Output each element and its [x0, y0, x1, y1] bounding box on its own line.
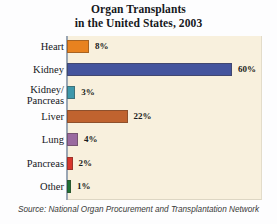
bar-category-label-line: Kidney: [2, 64, 64, 75]
source-note: Source: National Organ Procurement and T…: [0, 205, 277, 215]
bar-category-label-line: Pancreas: [2, 158, 64, 169]
bar-category-label: Kidney: [2, 64, 64, 75]
bar-value-label: 22%: [134, 110, 152, 123]
bar-row: Lung4%: [0, 133, 277, 156]
bar-value-label: 3%: [81, 86, 95, 99]
bar-category-label: Pancreas: [2, 158, 64, 169]
bar-rows-container: Heart8%Kidney60%Kidney/Pancreas3%Liver22…: [0, 36, 277, 200]
bar-row: Other1%: [0, 180, 277, 203]
page-title: Organ Transplants in the United States, …: [0, 3, 277, 30]
bar-row: Kidney/Pancreas3%: [0, 86, 277, 109]
bar-category-label: Liver: [2, 111, 64, 122]
bar-category-label: Lung: [2, 134, 64, 145]
bar-row: Liver22%: [0, 110, 277, 133]
bar-category-label-line: Heart: [2, 41, 64, 52]
bar-category-label-line: Pancreas: [2, 95, 64, 106]
bar-kidneypancreas: [67, 86, 75, 99]
bar-category-label: Other: [2, 181, 64, 192]
bar-other: [67, 180, 71, 193]
bar-category-label-line: Kidney/: [2, 84, 64, 95]
bar-value-label: 2%: [79, 157, 93, 170]
bar-category-label-line: Liver: [2, 111, 64, 122]
bar-value-label: 8%: [95, 40, 109, 53]
bar-liver: [67, 110, 128, 123]
bar-category-label-line: Lung: [2, 134, 64, 145]
organ-transplants-chart-figure: Organ Transplants in the United States, …: [0, 0, 277, 224]
chart-title-line-2: in the United States, 2003: [0, 17, 277, 31]
bar-kidney: [67, 63, 232, 76]
bar-category-label: Heart: [2, 41, 64, 52]
bar-lung: [67, 133, 78, 146]
bar-row: Pancreas2%: [0, 157, 277, 180]
bar-heart: [67, 40, 89, 53]
bar-value-label: 4%: [84, 133, 98, 146]
bar-row: Kidney60%: [0, 63, 277, 86]
bar-row: Heart8%: [0, 40, 277, 63]
bar-value-label: 1%: [77, 180, 91, 193]
bar-value-label: 60%: [238, 63, 256, 76]
bar-pancreas: [67, 157, 73, 170]
chart-title-line-1: Organ Transplants: [0, 3, 277, 17]
bar-category-label-line: Other: [2, 181, 64, 192]
bar-category-label: Kidney/Pancreas: [2, 84, 64, 106]
